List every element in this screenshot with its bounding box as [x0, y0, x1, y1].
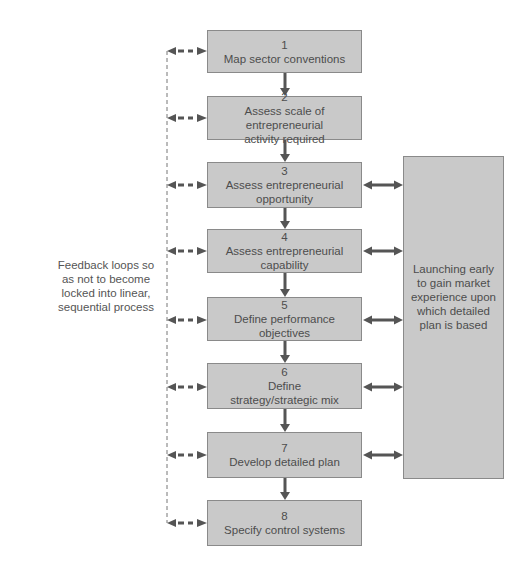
step-label: Define performance objectives	[234, 312, 335, 340]
step-number: 3	[281, 164, 287, 178]
step-3-box: 3 Assess entrepreneurial opportunity	[207, 162, 362, 208]
step-number: 6	[281, 365, 287, 379]
step-7-box: 7 Develop detailed plan	[207, 432, 362, 478]
step-label: Assess entrepreneurial opportunity	[226, 178, 344, 206]
step-1-box: 1 Map sector conventions	[207, 30, 362, 73]
step-label: Specify control systems	[224, 523, 345, 537]
step-8-box: 8 Specify control systems	[207, 500, 362, 546]
step-number: 5	[281, 298, 287, 312]
side-arrows	[363, 181, 403, 460]
step-6-box: 6 Define strategy/strategic mix	[207, 363, 362, 409]
step-2-box: 2 Assess scale of entrepreneurial activi…	[207, 96, 362, 140]
step-number: 1	[281, 38, 287, 52]
launch-early-box: Launching early to gain market experienc…	[403, 156, 504, 479]
feedback-arrows	[167, 47, 207, 527]
step-number: 2	[281, 90, 287, 104]
step-label: Define strategy/strategic mix	[230, 379, 339, 407]
step-number: 8	[281, 509, 287, 523]
step-label: Assess entrepreneurial capability	[226, 244, 344, 272]
step-label: Assess scale of entrepreneurial activity…	[208, 104, 361, 146]
step-5-box: 5 Define performance objectives	[207, 297, 362, 341]
feedback-loop-note: Feedback loops so as not to become locke…	[56, 258, 156, 314]
step-label: Map sector conventions	[224, 52, 345, 66]
step-number: 4	[281, 230, 287, 244]
step-number: 7	[281, 441, 287, 455]
step-label: Develop detailed plan	[229, 455, 340, 469]
step-4-box: 4 Assess entrepreneurial capability	[207, 229, 362, 273]
